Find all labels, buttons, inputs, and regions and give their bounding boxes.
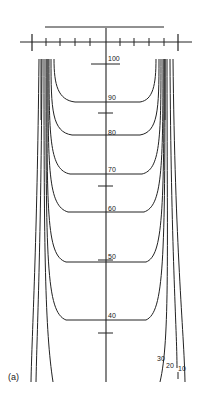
label-30: 30 <box>157 355 165 362</box>
isodose-curve-90 <box>54 59 156 102</box>
panel-label: (a) <box>8 372 19 382</box>
label-100: 100 <box>108 55 120 62</box>
label-20: 20 <box>166 362 174 369</box>
isodose-curve-70 <box>49 59 161 174</box>
isodose-curve-10-right <box>173 59 185 382</box>
label-40: 40 <box>108 312 116 319</box>
isodose-curve-80 <box>51 59 159 135</box>
label-50: 50 <box>108 253 116 260</box>
label-10: 10 <box>178 365 186 372</box>
label-90: 90 <box>108 94 116 101</box>
isodose-diagram: 100 90 80 70 60 50 40 30 20 10 (a) <box>0 0 202 402</box>
label-80: 80 <box>108 129 116 136</box>
label-70: 70 <box>108 166 116 173</box>
label-60: 60 <box>108 205 116 212</box>
